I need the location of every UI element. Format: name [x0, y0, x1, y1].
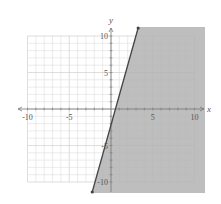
line-endpoint-arrow [137, 26, 140, 29]
line-endpoint-arrow [91, 190, 94, 193]
shaded-region [92, 27, 205, 193]
y-tick-label: -10 [97, 178, 108, 187]
inequality-graph: x y -10 -5 5 10 10 5 -5 -10 [0, 0, 221, 204]
x-tick-label: -5 [66, 113, 73, 122]
y-tick-label: 5 [104, 69, 108, 78]
y-tick-label: 10 [100, 32, 108, 41]
y-tick-label: -5 [101, 142, 108, 151]
x-tick-label: 5 [151, 113, 155, 122]
x-tick-label: 10 [191, 113, 199, 122]
y-axis-label: y [108, 15, 113, 25]
x-tick-label: -10 [22, 113, 33, 122]
x-axis-label: x [206, 104, 211, 114]
